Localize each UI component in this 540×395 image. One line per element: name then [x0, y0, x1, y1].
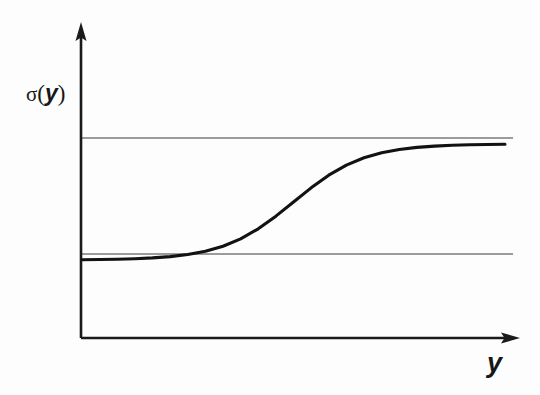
sigma-symbol: σ	[26, 82, 37, 106]
y-variable-symbol: y	[45, 80, 58, 106]
y-axis-label: σ(y)	[26, 82, 65, 105]
sigmoid-plot-svg	[0, 0, 540, 395]
sigmoid-curve-path	[82, 144, 505, 260]
open-paren: (	[37, 81, 45, 106]
close-paren: )	[58, 81, 66, 106]
figure-container: σ(y) y	[0, 0, 540, 395]
x-axis-label: y	[487, 350, 502, 377]
